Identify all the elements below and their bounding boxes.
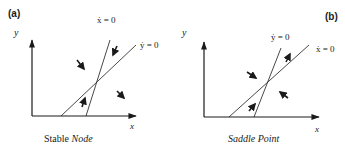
caption-a: Stable Node	[44, 133, 93, 144]
y-axis-label-a: y	[13, 27, 19, 38]
flow-arrow-icon	[77, 60, 84, 69]
x-axis-label-a: x	[129, 121, 134, 131]
panel-b-saddle-point: (b) y x ẏ = 0 ẋ = 0 Saddle Point	[181, 11, 338, 144]
flow-arrow-icon	[249, 104, 255, 111]
nullcline-xdot-b	[229, 45, 309, 117]
flow-arrow-icon	[247, 72, 256, 78]
nullcline-ydot-label-b: ẏ = 0	[271, 32, 290, 42]
flow-arrow-icon	[117, 91, 124, 98]
panel-tag-b: (b)	[325, 11, 338, 22]
phase-diagram-figure: (a) y x ẋ = 0 ẏ = 0 Stable Node (b) y x …	[0, 0, 345, 152]
flow-arrow-icon	[82, 98, 85, 107]
nullcline-xdot-label-a: ẋ = 0	[97, 15, 116, 25]
flow-arrow-icon	[286, 54, 290, 62]
nullcline-ydot-label-a: ẏ = 0	[140, 40, 159, 50]
panel-tag-a: (a)	[8, 8, 20, 19]
flow-arrow-icon	[113, 46, 117, 55]
nullcline-xdot-label-b: ẋ = 0	[316, 44, 335, 54]
y-axis-label-b: y	[181, 27, 187, 38]
x-axis-label-b: x	[314, 124, 319, 134]
flow-arrow-icon	[280, 92, 288, 98]
caption-b: Saddle Point	[228, 133, 280, 144]
panel-a-stable-node: (a) y x ẋ = 0 ẏ = 0 Stable Node	[8, 8, 159, 144]
nullcline-xdot-a	[86, 40, 110, 116]
nullcline-ydot-a	[61, 45, 136, 116]
